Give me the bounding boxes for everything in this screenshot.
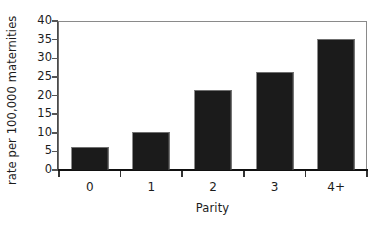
bar-series <box>59 21 367 170</box>
x-tick-label: 0 <box>59 181 121 193</box>
x-tick-mark <box>243 171 245 177</box>
y-tick-label: 25 <box>24 71 52 83</box>
x-tick-label: 1 <box>121 181 183 193</box>
bar[interactable] <box>71 147 108 170</box>
y-tick-label: 5 <box>24 145 52 157</box>
x-tick-mark <box>181 171 183 177</box>
y-tick-label: 10 <box>24 127 52 139</box>
y-tick-mark <box>52 151 58 153</box>
y-tick-label: 40 <box>24 15 52 27</box>
y-tick-label: 15 <box>24 108 52 120</box>
x-tick-label: 2 <box>182 181 244 193</box>
bar-slot <box>121 21 183 170</box>
x-tick-label: 4+ <box>305 181 367 193</box>
bar[interactable] <box>194 90 231 170</box>
y-tick-mark <box>52 132 58 134</box>
y-tick-mark <box>52 58 58 60</box>
x-tick-label: 3 <box>244 181 306 193</box>
x-axis-title: Parity <box>58 201 367 215</box>
y-tick-mark <box>52 169 58 171</box>
y-tick-mark <box>52 20 58 22</box>
y-tick-label: 35 <box>24 34 52 46</box>
bar-slot <box>182 21 244 170</box>
x-tick-mark <box>120 171 122 177</box>
y-tick-label: 0 <box>24 164 52 176</box>
y-tick-mark <box>52 113 58 115</box>
y-tick-mark <box>52 95 58 97</box>
x-tick-mark <box>366 171 368 177</box>
y-tick-mark <box>52 39 58 41</box>
bar-slot <box>305 21 367 170</box>
bar-slot <box>59 21 121 170</box>
y-tick-label: 30 <box>24 52 52 64</box>
bar-slot <box>244 21 306 170</box>
bar[interactable] <box>318 39 355 170</box>
y-tick-label: 20 <box>24 90 52 102</box>
x-tick-mark <box>305 171 307 177</box>
y-axis-tick-labels: 0510152025303540 <box>24 15 52 177</box>
y-tick-mark <box>52 76 58 78</box>
bar-chart-figure: rate per 100,000 maternities 05101520253… <box>0 0 385 225</box>
bar[interactable] <box>256 72 293 170</box>
y-axis-title: rate per 100,000 maternities <box>3 20 21 185</box>
bar[interactable] <box>133 132 170 170</box>
x-tick-mark <box>58 171 60 177</box>
